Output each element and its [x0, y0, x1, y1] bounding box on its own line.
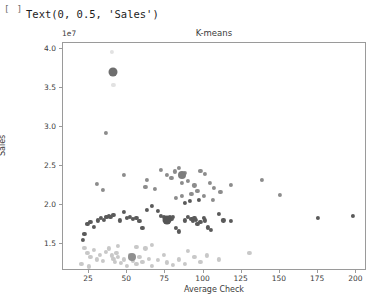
scatter-point: [208, 181, 212, 185]
x-tick-mark: [164, 270, 165, 273]
scatter-point: [221, 218, 225, 222]
scatter-point: [104, 131, 108, 135]
scatter-point: [98, 253, 102, 257]
scatter-point: [137, 255, 141, 259]
cluster-centroid-marker: [162, 216, 171, 225]
scatter-point: [165, 260, 169, 264]
scatter-point: [159, 168, 163, 172]
y-axis-label: Sales: [0, 135, 7, 156]
x-axis-label: Average Check: [62, 285, 366, 294]
y-tick-mark: [59, 87, 62, 88]
x-tick-label: 200: [348, 274, 362, 283]
scatter-point: [192, 255, 196, 259]
scatter-point: [229, 219, 233, 223]
scatter-point: [79, 262, 83, 266]
scatter-point: [188, 199, 192, 203]
scatter-point: [95, 182, 99, 186]
scatter-point: [122, 173, 126, 177]
scatter-point: [351, 214, 355, 218]
y-tick-mark: [59, 126, 62, 127]
scatter-point: [205, 253, 209, 257]
scatter-point: [211, 198, 215, 202]
scatter-point: [119, 261, 123, 265]
scatter-point: [177, 257, 181, 261]
scatter-point: [125, 263, 129, 267]
x-tick-label: 150: [272, 274, 286, 283]
scatter-point: [172, 169, 176, 173]
scatter-point: [186, 179, 190, 183]
scatter-point: [278, 193, 282, 197]
scatter-point: [122, 210, 126, 214]
x-tick-label: 75: [160, 274, 170, 283]
x-tick-mark: [317, 270, 318, 273]
scatter-point: [140, 260, 144, 264]
scatter-point: [259, 178, 263, 182]
scatter-point: [111, 83, 115, 87]
scatter-point: [107, 246, 111, 250]
x-tick-label: 175: [310, 274, 324, 283]
x-tick-mark: [88, 270, 89, 273]
scatter-point: [162, 253, 166, 257]
chart-title: K-means: [62, 28, 366, 38]
y-tick-label: 2.0: [44, 199, 56, 208]
scatter-point: [203, 218, 207, 222]
scatter-point: [156, 258, 160, 262]
scatter-point: [209, 228, 213, 232]
scatter-point: [95, 257, 99, 261]
scatter-point: [140, 226, 144, 230]
x-tick-label: 100: [195, 274, 209, 283]
scatter-point: [116, 244, 120, 248]
scatter-point: [203, 172, 207, 176]
scatter-point: [82, 232, 86, 236]
scatter-point: [183, 201, 187, 205]
scatter-point: [171, 215, 175, 219]
scatter-point: [146, 256, 150, 260]
scatter-point: [197, 198, 201, 202]
y-tick-label: 2.5: [44, 160, 56, 169]
scatter-point: [198, 220, 202, 224]
y-tick-mark: [59, 165, 62, 166]
scatter-point: [183, 262, 187, 266]
y-tick-label: 4.0: [44, 44, 56, 53]
scatter-point: [218, 190, 222, 194]
scatter-point: [134, 245, 138, 249]
scatter-point: [116, 255, 120, 259]
cluster-centroid-marker: [109, 67, 118, 76]
scatter-point: [212, 186, 216, 190]
scatter-point: [101, 188, 105, 192]
scatter-point: [88, 255, 92, 259]
scatter-point: [198, 169, 202, 173]
scatter-point: [143, 246, 147, 250]
plot-area: [62, 42, 366, 270]
scatter-point: [201, 194, 205, 198]
scatter-point: [122, 257, 126, 261]
scatter-point: [137, 219, 141, 223]
scatter-point: [217, 257, 221, 261]
scatter-point: [87, 264, 91, 268]
scatter-point: [229, 183, 233, 187]
scatter-point: [117, 218, 121, 222]
cluster-centroid-marker: [178, 171, 186, 179]
y-tick-mark: [59, 243, 62, 244]
scatter-point: [186, 249, 190, 253]
scatter-point: [195, 189, 199, 193]
scatter-point: [101, 259, 105, 263]
scatter-point: [169, 176, 173, 180]
x-tick-mark: [279, 270, 280, 273]
cell-text-output: Text(0, 0.5, 'Sales'): [26, 8, 159, 20]
y-axis-offset-text: 1e7: [62, 29, 76, 38]
y-tick-mark: [59, 48, 62, 49]
scatter-point: [171, 263, 175, 267]
scatter-point: [165, 172, 169, 176]
x-tick-mark: [203, 270, 204, 273]
scatter-point: [180, 193, 184, 197]
scatter-point: [174, 196, 178, 200]
scatter-point: [180, 181, 184, 185]
x-tick-mark: [355, 270, 356, 273]
scatter-point: [150, 263, 154, 267]
scatter-point: [82, 246, 86, 250]
scatter-point: [88, 220, 92, 224]
scatter-point: [150, 204, 154, 208]
scatter-point: [247, 251, 251, 255]
cell-prompt-label[interactable]: [ ]: [4, 4, 23, 14]
